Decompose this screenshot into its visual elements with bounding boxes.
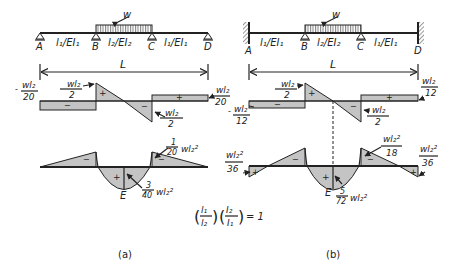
support-label-A: A: [35, 41, 43, 52]
svg-text:−: −: [274, 100, 281, 109]
fixed-support-left: [243, 22, 249, 44]
svg-text:wl₂: wl₂: [372, 105, 386, 115]
length-dimension-a: L: [40, 58, 208, 80]
svg-text:2: 2: [69, 90, 75, 100]
support-a-A: [35, 33, 45, 40]
svg-text:wl₂²: wl₂²: [226, 150, 243, 160]
support-label-B: B: [301, 41, 308, 52]
svg-text:40: 40: [142, 191, 152, 200]
svg-text:+: +: [252, 168, 259, 177]
svg-text:(: (: [219, 207, 225, 226]
shear-sign: +: [99, 88, 107, 98]
svg-text:5: 5: [340, 187, 345, 196]
svg-text:-: -: [15, 85, 18, 94]
support-a-B: [91, 33, 101, 40]
length-label-b: L: [330, 58, 336, 71]
span-label-3: l₁/EI₁: [374, 37, 397, 48]
support-a-C: [147, 33, 157, 40]
svg-text:): ): [238, 207, 244, 226]
distributed-load-b: [305, 25, 361, 33]
support-label-A: A: [244, 45, 252, 56]
svg-text:+: +: [386, 93, 393, 102]
support-label-D: D: [204, 41, 212, 52]
svg-text:20: 20: [215, 97, 227, 107]
shear-left-num: wl₂: [22, 80, 36, 90]
svg-text:wl₂: wl₂: [67, 79, 81, 89]
svg-text:36: 36: [227, 164, 239, 174]
beam-a: w A B C D l₁/EI₁ l₂/EI₂: [35, 9, 213, 52]
svg-text:2: 2: [284, 90, 290, 100]
load-label-a: w: [123, 9, 132, 20]
support-label-C: C: [357, 41, 364, 52]
svg-text:2: 2: [375, 117, 381, 127]
support-label-D: D: [414, 45, 422, 56]
support-b-C: [356, 33, 366, 40]
support-b-B: [300, 33, 310, 40]
svg-text:l₂: l₂: [201, 218, 208, 228]
svg-text:−: −: [292, 155, 299, 164]
load-label-b: w: [332, 9, 341, 20]
svg-text:−: −: [367, 155, 374, 164]
svg-text:−: −: [350, 102, 357, 111]
svg-text:= 1: = 1: [246, 211, 264, 222]
svg-text:wl₂: wl₂: [234, 104, 248, 114]
point-label-E-a: E: [120, 190, 127, 201]
svg-text:36: 36: [422, 158, 434, 168]
svg-text:wl₂: wl₂: [165, 108, 179, 118]
caption-a: (a): [118, 249, 132, 260]
svg-text:-: -: [228, 107, 231, 116]
moment-diagram-b: + − + − + E wl₂² 36 wl₂² 18 wl₂² 36 5: [225, 134, 438, 206]
caption-b: (b): [326, 249, 340, 260]
moment-diagram-a: − + − E 1 20 wl₂² 3 40 wl₂²: [40, 138, 208, 201]
span-label-1: l₁/EI₁: [56, 37, 79, 48]
svg-text:−: −: [83, 155, 90, 164]
svg-text:1: 1: [171, 138, 176, 147]
support-label-C: C: [148, 41, 155, 52]
svg-text:3: 3: [146, 181, 151, 190]
svg-text:wl₂²: wl₂²: [383, 134, 400, 144]
length-dimension-b: L: [249, 58, 418, 80]
length-label-a: L: [120, 58, 126, 71]
span-label-3: l₁/EI₁: [164, 37, 187, 48]
svg-text:2: 2: [168, 119, 174, 129]
fixed-support-right: [418, 22, 424, 44]
svg-text:−: −: [158, 155, 165, 164]
svg-text:+: +: [410, 168, 417, 177]
shear-diagram-a: − + − + - wl₂ 20 wl₂ 2 wl₂ 2 wl₂ 20: [15, 79, 230, 129]
shear-sign: −: [141, 102, 148, 111]
support-a-D: [203, 33, 213, 40]
svg-text:+: +: [308, 88, 316, 98]
point-label-E-b: E: [325, 187, 332, 198]
beam-diagram-figure: w A B C D l₁/EI₁ l₂/EI₂: [0, 0, 453, 271]
shear-left-den: 20: [23, 92, 35, 102]
svg-text:wl₂²: wl₂²: [420, 144, 437, 154]
beam-b: w A B C D l₁/EI₁ l₂/EI₂: [243, 9, 424, 56]
svg-text:l₁: l₁: [201, 205, 208, 215]
svg-text:wl₂: wl₂: [216, 85, 230, 95]
span-label-2: l₂/EI₂: [317, 37, 340, 48]
svg-text:I₂: I₂: [226, 205, 233, 215]
svg-text:18: 18: [386, 148, 398, 158]
svg-text:wl₂: wl₂: [281, 79, 295, 89]
svg-text:+: +: [322, 172, 330, 182]
span-label-2: l₂/EI₂: [108, 37, 131, 48]
svg-text:(: (: [194, 207, 200, 226]
support-label-B: B: [92, 41, 99, 52]
svg-text:wl₂²: wl₂²: [156, 187, 173, 197]
svg-text:): ): [212, 207, 218, 226]
svg-text:I₁: I₁: [227, 218, 234, 228]
svg-text:20: 20: [167, 148, 177, 157]
svg-text:72: 72: [336, 197, 346, 206]
svg-text:wl₂²: wl₂²: [350, 193, 367, 203]
svg-text:12: 12: [425, 88, 437, 98]
shear-sign: +: [176, 93, 183, 102]
svg-text:wl₂²: wl₂²: [181, 144, 198, 154]
span-label-1: l₁/EI₁: [260, 37, 283, 48]
distributed-load-a: [96, 25, 152, 33]
shear-sign: −: [64, 101, 71, 110]
svg-text:wl₂: wl₂: [422, 76, 436, 86]
stiffness-condition-formula: ( l₁ l₂ ) ( I₂ I₁ ) = 1: [194, 205, 264, 228]
svg-text:12: 12: [236, 116, 248, 126]
svg-text:+: +: [113, 172, 121, 182]
panel-b: w A B C D l₁/EI₁ l₂/EI₂: [225, 9, 438, 260]
